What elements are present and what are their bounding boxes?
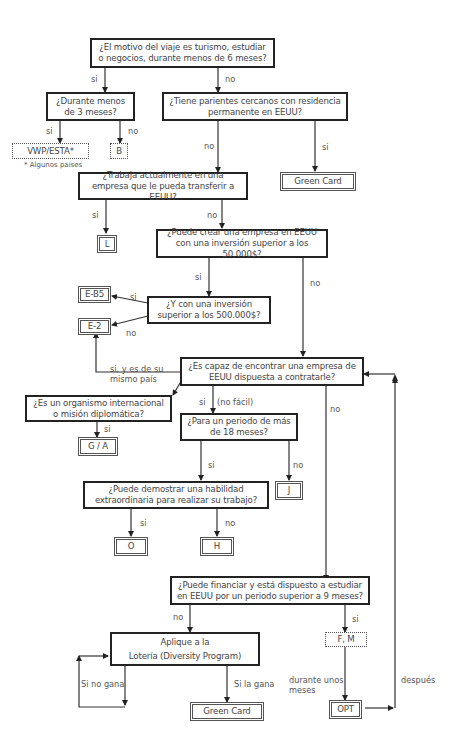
question-under-3-months: ¿Durante menos de 3 meses? bbox=[46, 92, 135, 121]
edge-label-opt-after: después bbox=[401, 675, 435, 685]
edge-label-q2-no: no bbox=[128, 126, 138, 136]
question-extraordinary-ability: ¿Puede demostrar una habilidad extraordi… bbox=[83, 481, 269, 509]
edge-label-q7-yes: si bbox=[199, 397, 206, 407]
question-travel-purpose: ¿El motivo del viaje es turismo, estudia… bbox=[90, 38, 275, 68]
outcome-fm-visa: F, M bbox=[325, 632, 367, 647]
edge-label-q6-yes: si bbox=[130, 292, 137, 302]
edge-label-q4-yes: si bbox=[92, 210, 99, 220]
edge-label-lottery-win: Si la gana bbox=[234, 679, 274, 689]
question-invest-500000: ¿Y con una inversión superior a los 500.… bbox=[147, 296, 271, 324]
question-international-organization: ¿Es un organismo internacional o misión … bbox=[25, 395, 172, 422]
outcome-o-visa: O bbox=[114, 537, 148, 556]
edge-label-q8-yes: si bbox=[104, 424, 111, 434]
edge-label-q7-yes-note: (no fácil) bbox=[217, 397, 253, 407]
outcome-h-visa: H bbox=[200, 537, 234, 556]
edge-label-fm-to-opt: durante unos meses bbox=[289, 675, 345, 695]
outcome-ga-visa: G / A bbox=[78, 437, 118, 456]
edge-label-q6-no: no bbox=[126, 328, 136, 338]
lottery-line-2: Lotería (Diversity Program) bbox=[129, 649, 241, 663]
lottery-diversity-program: Aplique a la Lotería (Diversity Program) bbox=[110, 632, 260, 666]
edge-label-q4-no: no bbox=[207, 210, 217, 220]
edge-label-q2-yes: si bbox=[46, 126, 53, 136]
lottery-line-1: Aplique a la bbox=[161, 635, 210, 649]
footnote-some-countries: * Algunos países bbox=[24, 161, 82, 169]
edge-label-q3-yes: si bbox=[322, 142, 329, 152]
edge-label-q11-yes: si bbox=[352, 614, 359, 624]
edge-label-q5-yes: si bbox=[195, 272, 202, 282]
question-over-18-months: ¿Para un periodo de más de 18 meses? bbox=[180, 413, 298, 441]
question-company-transfer: ¿Trabaja actualmente en una empresa que … bbox=[78, 172, 248, 200]
outcome-b-visa: B bbox=[110, 143, 128, 159]
outcome-j-visa: J bbox=[275, 481, 303, 500]
edge-label-q7-no: no bbox=[330, 404, 340, 414]
edge-label-lottery-lose: Si no gana bbox=[81, 679, 124, 689]
question-find-employer: ¿Es capaz de encontrar una empresa de EE… bbox=[180, 357, 364, 386]
question-invest-50000: ¿Puede crear una empresa en EEUU con una… bbox=[156, 229, 328, 258]
outcome-l-visa: L bbox=[97, 235, 117, 253]
outcome-green-card-lottery: Green Card bbox=[190, 702, 264, 721]
edge-label-q10-yes: si bbox=[140, 518, 147, 528]
edge-label-q1-no: no bbox=[225, 74, 235, 84]
outcome-eb5-visa: E-B5 bbox=[78, 286, 111, 303]
edge-label-q7-same-country: si, y es de su mismo país bbox=[110, 364, 176, 384]
edge-label-q9-no: no bbox=[293, 460, 303, 470]
outcome-e2-visa: E-2 bbox=[78, 318, 111, 335]
edge-label-q5-no: no bbox=[310, 278, 320, 288]
edge-label-q11-no: no bbox=[173, 612, 183, 622]
question-study-9-months: ¿Puede financiar y está dispuesto a estu… bbox=[170, 576, 370, 605]
edge-label-q9-yes: si bbox=[208, 460, 215, 470]
outcome-vwp-esta: VWP/ESTA* bbox=[12, 143, 89, 159]
edge-label-q10-no: no bbox=[225, 518, 235, 528]
edge-label-q3-no: no bbox=[204, 141, 214, 151]
outcome-green-card-family: Green Card bbox=[280, 172, 356, 191]
question-close-relatives: ¿Tiene parientes cercanos con residencia… bbox=[162, 92, 348, 121]
edge-label-q1-yes: si bbox=[91, 74, 98, 84]
outcome-opt: OPT bbox=[329, 700, 362, 719]
